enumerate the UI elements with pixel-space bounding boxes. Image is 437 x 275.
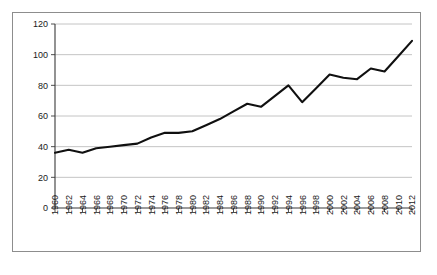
y-tick-label: 0 xyxy=(43,203,48,213)
x-tick-label: 2006 xyxy=(366,195,376,215)
x-tick-label: 2008 xyxy=(380,195,390,215)
x-tick-label: 1994 xyxy=(284,195,294,215)
x-tick-labels: 1960196219641966196819701972197419761978… xyxy=(50,195,417,215)
x-tick-label: 1990 xyxy=(256,195,266,215)
chart-frame: 020406080100120 196019621964196619681970… xyxy=(12,12,421,252)
y-tick-labels: 020406080100120 xyxy=(33,19,48,213)
x-tick-label: 2012 xyxy=(407,195,417,215)
y-tick-label: 80 xyxy=(38,81,48,91)
x-tick-label: 1972 xyxy=(133,195,143,215)
x-tick-label: 1982 xyxy=(201,195,211,215)
y-tick-label: 60 xyxy=(38,111,48,121)
x-tick-label: 1962 xyxy=(64,195,74,215)
x-tick-label: 1986 xyxy=(229,195,239,215)
x-tick-label: 1984 xyxy=(215,195,225,215)
line-chart: 020406080100120 196019621964196619681970… xyxy=(13,13,420,251)
x-tick-label: 1980 xyxy=(188,195,198,215)
x-tick-label: 2000 xyxy=(325,195,335,215)
x-tick-label: 2004 xyxy=(352,195,362,215)
gridlines xyxy=(51,24,412,208)
x-tick-label: 1998 xyxy=(311,195,321,215)
y-tick-label: 120 xyxy=(33,19,48,29)
x-tick-label: 1966 xyxy=(92,195,102,215)
x-tick-label: 2002 xyxy=(339,195,349,215)
x-tick-label: 1996 xyxy=(298,195,308,215)
x-tick-label: 2010 xyxy=(394,195,404,215)
y-tick-label: 100 xyxy=(33,50,48,60)
figure-root: 020406080100120 196019621964196619681970… xyxy=(0,0,437,275)
x-tick-label: 1968 xyxy=(105,195,115,215)
y-tick-label: 40 xyxy=(38,142,48,152)
x-tick-label: 1978 xyxy=(174,195,184,215)
x-tick-label: 1964 xyxy=(78,195,88,215)
x-tick-label: 1974 xyxy=(147,195,157,215)
x-tick-label: 1976 xyxy=(160,195,170,215)
y-tick-label: 20 xyxy=(38,173,48,183)
x-tick-label: 1970 xyxy=(119,195,129,215)
x-tick-label: 1988 xyxy=(243,195,253,215)
data-series-line xyxy=(55,41,412,153)
x-tick-label: 1992 xyxy=(270,195,280,215)
x-tick-label: 1960 xyxy=(50,195,60,215)
